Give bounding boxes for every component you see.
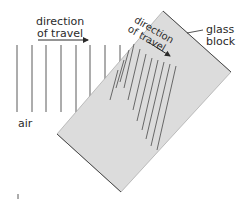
refraction-diagram: direction of travel direction of travel … (0, 0, 245, 201)
air-direction-label-line2: of travel (37, 27, 83, 40)
air-label: air (18, 117, 33, 130)
glass-block-label-line2: block (206, 35, 236, 48)
glass-block-leader-line (187, 30, 203, 33)
